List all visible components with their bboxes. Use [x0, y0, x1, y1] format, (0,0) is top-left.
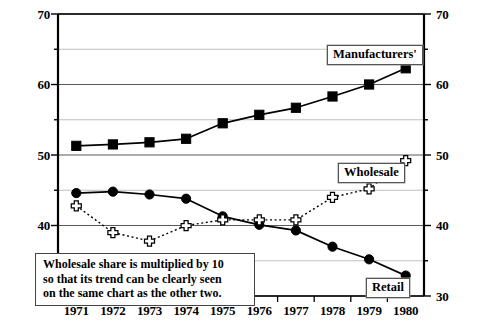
data-point-retail-1973	[145, 190, 154, 199]
data-point-manufacturers-1977	[291, 103, 300, 112]
chart-container: 70 60 50 40 30 70 60 50 40 30 1971 1972 …	[0, 0, 478, 326]
y-axis-right-tick-50: 50	[436, 148, 476, 164]
data-point-manufacturers-1974	[182, 134, 191, 143]
data-point-retail-1977	[291, 226, 300, 235]
data-point-retail-1979	[365, 255, 374, 264]
data-point-manufacturers-1979	[365, 80, 374, 89]
y-axis-right-tick-40: 40	[436, 218, 476, 234]
data-point-manufacturers-1978	[328, 92, 337, 101]
data-point-retail-1971	[72, 188, 81, 197]
y-axis-left-tick-40: 40	[2, 218, 50, 234]
y-axis-right-tick-70: 70	[436, 7, 476, 23]
data-point-retail-1974	[182, 194, 191, 203]
data-point-retail-1978	[328, 242, 337, 251]
data-point-manufacturers-1973	[145, 138, 154, 147]
annotation-wholesale-note: Wholesale share is multiplied by 10 so t…	[35, 253, 255, 306]
series-label-manufacturers: Manufacturers'	[327, 45, 423, 65]
y-axis-left-tick-50: 50	[2, 148, 50, 164]
data-point-manufacturers-1972	[108, 140, 117, 149]
y-axis-left-tick-60: 60	[2, 77, 50, 93]
y-axis-right-tick-30: 30	[436, 289, 476, 305]
data-point-retail-1972	[108, 187, 117, 196]
data-point-manufacturers-1980	[401, 64, 410, 73]
data-point-manufacturers-1971	[72, 141, 81, 150]
series-label-retail: Retail	[366, 278, 410, 298]
data-point-manufacturers-1975	[218, 119, 227, 128]
y-axis-left-tick-70: 70	[2, 7, 50, 23]
data-point-manufacturers-1976	[255, 110, 264, 119]
x-axis-tick-1980: 1980	[380, 303, 432, 319]
y-axis-right-tick-60: 60	[436, 77, 476, 93]
series-label-wholesale: Wholesale	[338, 163, 405, 183]
